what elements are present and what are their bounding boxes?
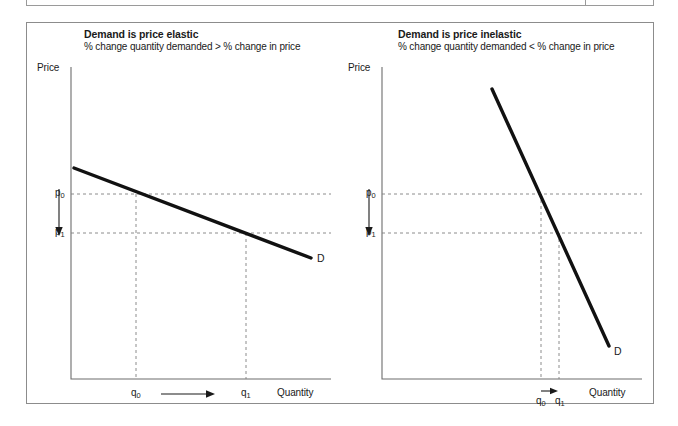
x-axis-label-elastic: Quantity [277, 387, 313, 398]
p0-sub-elastic: 0 [60, 191, 64, 200]
panel-inelastic: Demand is price inelastic % change quant… [341, 23, 655, 405]
quantity-rise-arrowhead-elastic [206, 390, 215, 397]
y-axis-label-elastic: Price [37, 62, 59, 73]
quantity-label-q0-elastic: q0 [131, 387, 141, 398]
p1-sub-elastic: 1 [60, 230, 64, 239]
quantity-label-q1-elastic: q1 [241, 387, 251, 398]
top-partial-box [26, 0, 654, 6]
p1-sub-inelastic: 1 [371, 230, 375, 239]
plot-inelastic [341, 23, 655, 405]
panel-elastic: Demand is price elastic % change quantit… [27, 23, 341, 405]
demand-curve-label-inelastic: D [614, 345, 622, 357]
demand-curve-label-elastic: D [317, 252, 325, 264]
q0-sub-inelastic: 0 [541, 399, 545, 408]
price-label-p1-inelastic: p1 [366, 226, 376, 237]
figure-frame: Demand is price elastic % change quantit… [26, 22, 654, 404]
plot-elastic [27, 23, 341, 405]
price-label-p1-elastic: p1 [55, 226, 65, 237]
demand-curve-inelastic [492, 89, 609, 346]
p0-sub-inelastic: 0 [371, 191, 375, 200]
q1-sub-elastic: 1 [246, 391, 250, 400]
quantity-rise-arrowhead-inelastic [550, 388, 558, 395]
x-axis-label-inelastic: Quantity [589, 387, 625, 398]
axes-elastic [71, 67, 331, 379]
q0-sub-elastic: 0 [136, 391, 140, 400]
quantity-label-q0-inelastic: q0 [536, 395, 546, 406]
top-partial-box-divider [585, 0, 586, 6]
q1-sub-inelastic: 1 [560, 399, 564, 408]
demand-curve-elastic [74, 168, 311, 258]
y-axis-label-inelastic: Price [348, 62, 370, 73]
price-label-p0-elastic: p0 [55, 187, 65, 198]
price-label-p0-inelastic: p0 [366, 187, 376, 198]
quantity-label-q1-inelastic: q1 [555, 395, 565, 406]
